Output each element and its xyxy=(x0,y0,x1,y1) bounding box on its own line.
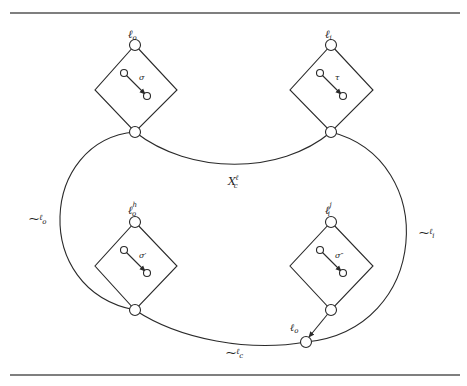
diamond-bottom-right: ℓji σ″ xyxy=(290,201,373,316)
diagram-canvas: ℓo σ ℓi τ ℓho σ′ ℓji σ″ ℓo Xℓc xyxy=(0,0,467,386)
top-middle-arc xyxy=(135,132,331,164)
inner-label: τ xyxy=(335,73,340,82)
node-top xyxy=(130,217,141,228)
right-curve-label: ⁓ℓi xyxy=(419,227,435,240)
diamond-top-label: ℓho xyxy=(128,201,137,218)
diamond-top-left: ℓo σ xyxy=(95,28,177,138)
diamond-top-label: ℓi xyxy=(325,28,332,42)
left-arc xyxy=(60,132,135,310)
top-middle-curve-label: Xℓc xyxy=(227,174,239,190)
left-curve-label: ⁓ℓo xyxy=(29,213,47,226)
outer-loop xyxy=(60,132,406,345)
bottom-arc xyxy=(135,310,306,345)
inner-node-end xyxy=(144,93,151,100)
inner-label: σ xyxy=(139,73,145,82)
node-bottom xyxy=(130,127,141,138)
inner-node-start xyxy=(121,70,128,77)
bottom-curve-label: ⁓ℓc xyxy=(226,347,243,360)
junction-node xyxy=(301,337,312,348)
inner-label: σ″ xyxy=(335,251,343,260)
diamond-top-right: ℓi τ xyxy=(290,28,373,138)
diamond-top-label: ℓo xyxy=(128,28,137,42)
junction-label: ℓo xyxy=(290,322,298,335)
node-top xyxy=(326,217,337,228)
node-bottom xyxy=(130,305,141,316)
node-bottom xyxy=(326,127,337,138)
diamond-top-label: ℓji xyxy=(325,201,333,218)
right-arc xyxy=(306,132,406,342)
diamond-bottom-left: ℓho σ′ xyxy=(95,201,177,316)
node-bottom xyxy=(326,305,337,316)
inner-label: σ′ xyxy=(139,251,146,260)
